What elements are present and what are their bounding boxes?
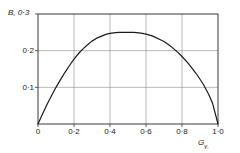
- x-tick-label-0-2: 0·2: [62, 127, 86, 136]
- x-tick-label-0-6: 0·6: [134, 127, 158, 136]
- data-series-line: [38, 32, 218, 124]
- x-tick-label-1-0: 1·0: [206, 127, 230, 136]
- y-tick-label-0-2: 0·2: [12, 46, 34, 55]
- y-axis-label: B, 0·3: [8, 8, 29, 17]
- tick-marks: [35, 14, 218, 127]
- x-tick-label-0-8: 0·8: [170, 127, 194, 136]
- axis-frame: [38, 14, 218, 124]
- x-axis-label-subscript: γ,: [204, 143, 209, 149]
- y-axis-label-text: B,: [8, 8, 16, 17]
- chart-figure: B, 0·3 0·2 0·1 0 0·2 0·4 0·6 0·8 1·0 Gγ,: [0, 0, 240, 153]
- y-tick-label-top: 0·3: [18, 8, 30, 17]
- x-tick-label-0: 0: [26, 127, 50, 136]
- gridlines: [38, 14, 218, 124]
- x-axis-label: Gγ,: [198, 138, 209, 149]
- x-tick-label-0-4: 0·4: [98, 127, 122, 136]
- y-tick-label-0-1: 0·1: [12, 83, 34, 92]
